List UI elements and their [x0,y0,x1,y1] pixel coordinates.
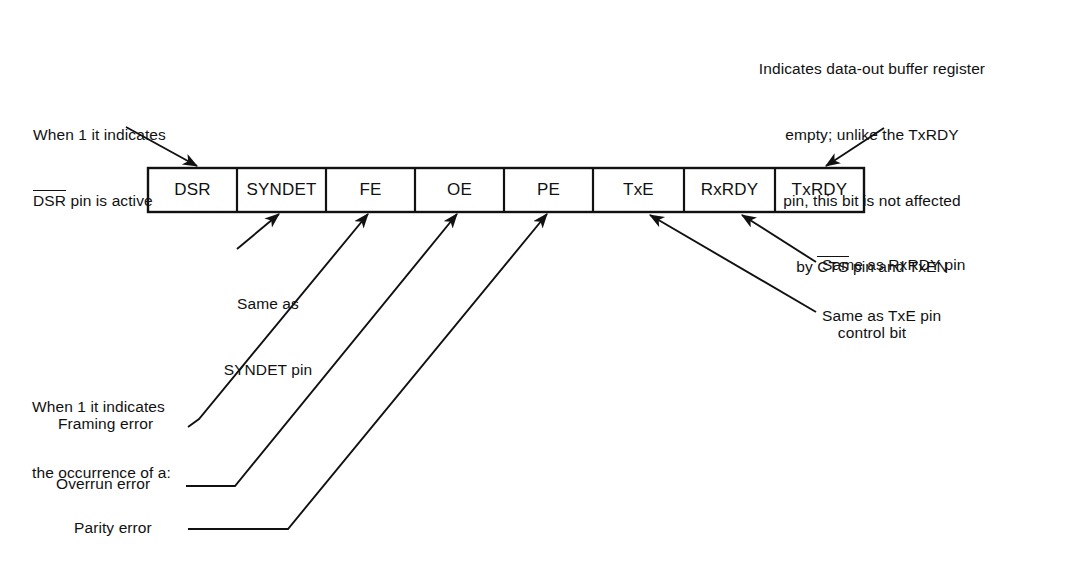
annotation-parity-error: Parity error [74,517,188,539]
annotation-txrdy-line4-prefix: by [796,258,817,275]
annotation-dsr-line2-suffix: pin is active [66,192,153,209]
annotation-syndet-line1: Same as [193,293,343,315]
register-cell-pe[interactable]: PE [504,180,593,200]
annotation-dsr: When 1 it indicates DSR pin is active [33,80,263,256]
annotation-txrdy: Indicates data-out buffer register empty… [683,14,1061,388]
annotation-framing-error: Framing error [58,413,188,435]
annotation-dsr-line2: DSR pin is active [33,190,263,212]
annotation-dsr-line1: When 1 it indicates [33,124,263,146]
register-cell-fe[interactable]: FE [326,180,415,200]
annotation-txrdy-line2: empty; unlike the TxRDY [683,124,1061,146]
register-cell-oe[interactable]: OE [415,180,504,200]
annotation-occurrence: When 1 it indicates the occurrence of a: [32,352,252,528]
annotation-overrun-error: Overrun error [56,473,188,495]
annotation-txrdy-line3: pin, this bit is not affected [683,190,1061,212]
diagram-canvas: DSR SYNDET FE OE PE TxE RxRDY TxRDY Indi… [0,0,1066,573]
annotation-txrdy-line1: Indicates data-out buffer register [683,58,1061,80]
annotation-dsr-overline: DSR [33,190,66,211]
register-cell-txe[interactable]: TxE [593,180,684,200]
annotation-txe: Same as TxE pin [822,305,1022,327]
annotation-rxrdy: Same as RxRDY pin [822,254,1037,276]
